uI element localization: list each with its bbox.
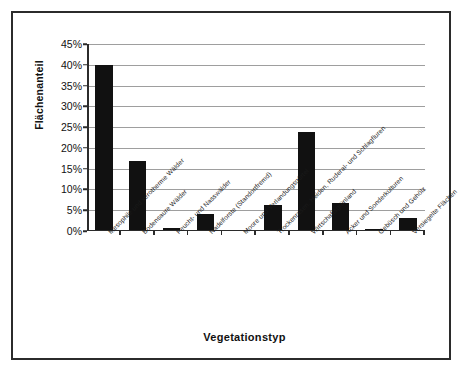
x-tick-mark <box>119 230 121 235</box>
y-tick-label: 0% <box>38 225 82 237</box>
bar <box>95 65 113 230</box>
x-tick-mark <box>187 230 189 235</box>
y-tick-label: 35% <box>38 80 82 92</box>
y-tick-label: 25% <box>38 121 82 133</box>
x-axis-title: Vegetationstyp <box>13 331 463 343</box>
y-tick-mark <box>83 230 87 232</box>
y-axis-title: Flächenanteil <box>29 35 49 155</box>
x-axis-line <box>87 230 425 232</box>
x-tick-mark <box>356 230 358 235</box>
y-tick-label: 15% <box>38 163 82 175</box>
x-tick-mark <box>423 230 425 235</box>
y-tick-label: 30% <box>38 100 82 112</box>
x-tick-mark <box>288 230 290 235</box>
y-tick-label: 5% <box>38 204 82 216</box>
bar-slot <box>87 44 121 230</box>
y-tick-label: 45% <box>38 38 82 50</box>
x-tick-mark <box>221 230 223 235</box>
y-tick-label: 40% <box>38 59 82 71</box>
chart-frame: Flächenanteil 0%5%10%15%20%25%30%35%40%4… <box>11 11 451 360</box>
y-tick-label: 10% <box>38 183 82 195</box>
x-tick-mark <box>390 230 392 235</box>
x-tick-mark <box>153 230 155 235</box>
x-tick-mark <box>322 230 324 235</box>
y-tick-label: 20% <box>38 142 82 154</box>
x-tick-mark <box>254 230 256 235</box>
chart-figure: Flächenanteil 0%5%10%15%20%25%30%35%40%4… <box>0 0 463 380</box>
